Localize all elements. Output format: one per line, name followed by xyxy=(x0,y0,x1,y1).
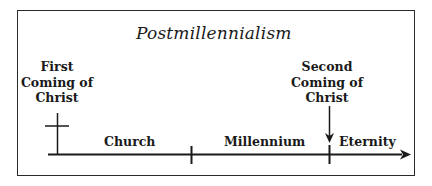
down-arrow-icon xyxy=(325,106,334,143)
cross-icon xyxy=(45,113,69,154)
timeline-graphic xyxy=(0,0,432,186)
